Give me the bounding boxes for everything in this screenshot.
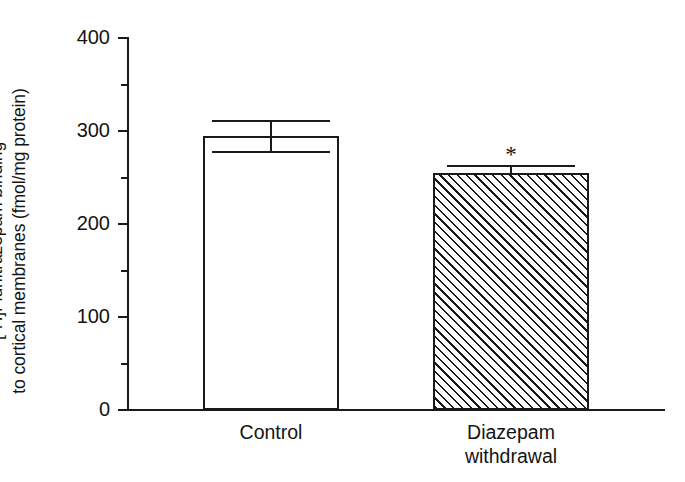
x-category-label-diazepam-withdrawal: Diazepam withdrawal [401, 420, 621, 469]
y-axis-title-line2: to cortical membranes (fmol/mg protein) [8, 88, 31, 393]
error-bar-stem-0 [270, 120, 272, 152]
y-tick-label-0: 0 [48, 399, 110, 419]
y-axis-title-line1: [3H]Flunitrazepam binding [0, 88, 8, 393]
error-bar-cap-lower-0 [212, 151, 330, 153]
y-tick-label-300: 300 [48, 120, 110, 140]
y-tick-label-200: 200 [48, 213, 110, 233]
y-tick-label-400: 400 [48, 27, 110, 47]
y-tick-minor-50 [121, 363, 127, 365]
y-tick-minor-350 [121, 84, 127, 86]
bar-diazepam-withdrawal [433, 173, 589, 410]
y-axis-line [127, 37, 129, 411]
y-tick-major-100 [118, 316, 127, 318]
significance-asterisk: * [491, 143, 531, 166]
y-tick-major-0 [118, 409, 127, 411]
y-tick-minor-150 [121, 270, 127, 272]
figure-bar-chart: [3H]Flunitrazepam binding to cortical me… [0, 0, 685, 482]
bar-control [203, 136, 339, 410]
error-bar-cap-upper-0 [212, 120, 330, 122]
x-category-label-control: Control [161, 420, 381, 444]
y-tick-major-400 [118, 37, 127, 39]
y-tick-major-300 [118, 130, 127, 132]
y-tick-label-100: 100 [48, 306, 110, 326]
y-tick-major-200 [118, 223, 127, 225]
y-tick-minor-250 [121, 177, 127, 179]
